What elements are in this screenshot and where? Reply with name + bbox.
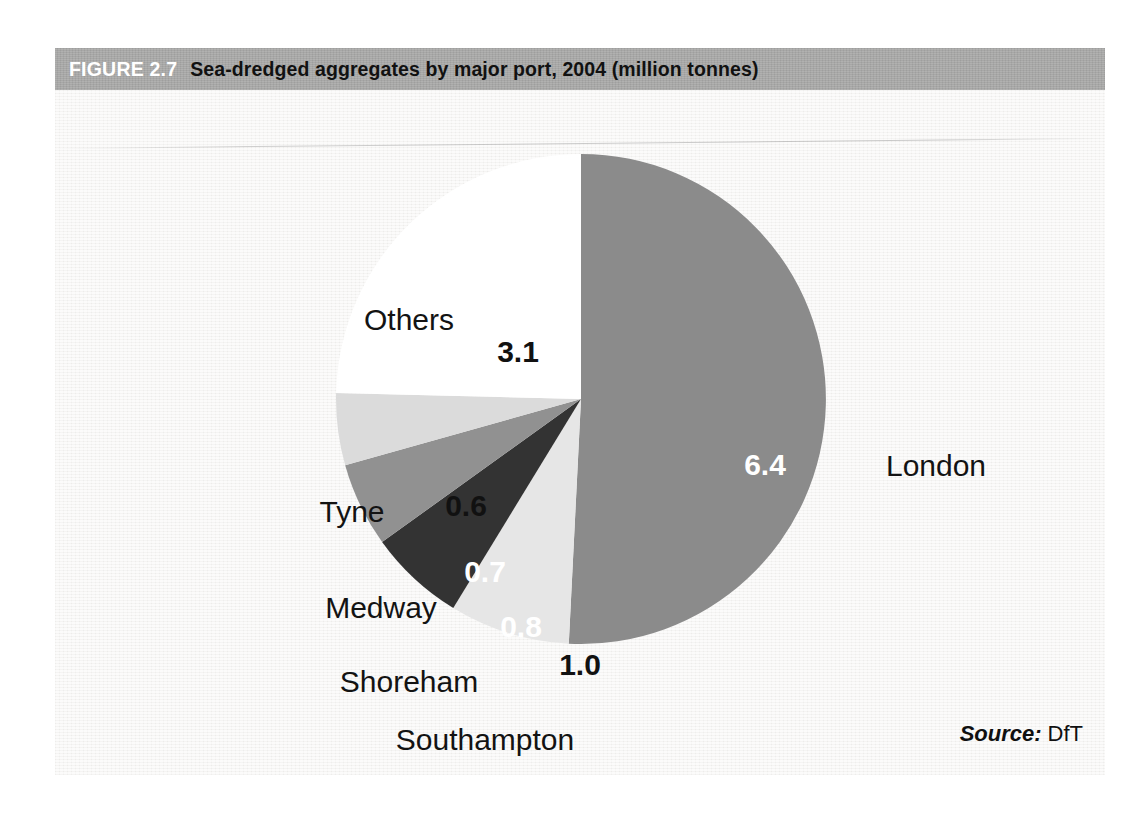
figure-body-panel: 6.4London1.0Southampton0.8Shoreham0.7Med… — [55, 90, 1105, 775]
pie-slice-others — [336, 154, 581, 399]
slice-label-southampton: Southampton — [396, 723, 574, 757]
slice-label-tyne: Tyne — [319, 495, 384, 529]
pie-slice-group — [336, 154, 826, 644]
source-value: DfT — [1048, 721, 1083, 746]
pie-chart-svg — [335, 153, 827, 645]
slice-label-medway: Medway — [325, 591, 437, 625]
slice-value-london: 6.4 — [744, 448, 786, 482]
source-label: Source: — [960, 721, 1042, 746]
figure-container: FIGURE 2.7 Sea-dredged aggregates by maj… — [55, 48, 1105, 775]
slice-label-shoreham: Shoreham — [340, 665, 478, 699]
scan-artifact-line — [55, 138, 1105, 149]
pie-chart — [335, 153, 827, 645]
figure-header-bar: FIGURE 2.7 Sea-dredged aggregates by maj… — [55, 48, 1105, 90]
slice-value-shoreham: 0.8 — [500, 610, 542, 644]
pie-slice-london — [569, 154, 826, 644]
slice-value-southampton: 1.0 — [559, 648, 601, 682]
figure-number-label: FIGURE 2.7 — [69, 58, 177, 81]
source-line: Source:DfT — [960, 721, 1083, 747]
slice-value-tyne: 0.6 — [445, 489, 487, 523]
slice-value-medway: 0.7 — [464, 555, 506, 589]
slice-value-others: 3.1 — [497, 335, 539, 369]
figure-title: Sea-dredged aggregates by major port, 20… — [190, 58, 758, 81]
slice-label-london: London — [886, 449, 986, 483]
slice-label-others: Others — [364, 303, 454, 337]
